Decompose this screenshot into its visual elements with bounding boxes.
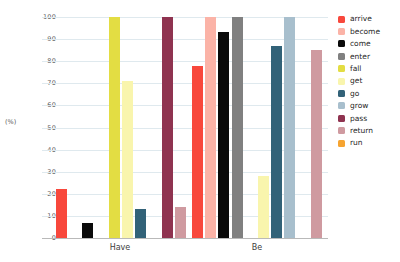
plot-area <box>42 17 328 238</box>
legend-swatch-come <box>338 40 345 47</box>
bar-have-arrive <box>56 189 67 238</box>
bar-have-return <box>175 207 186 238</box>
chart-legend: arrivebecomecomeenterfallgetgogrowpassre… <box>338 13 398 149</box>
legend-item-get[interactable]: get <box>338 75 398 87</box>
legend-item-return[interactable]: return <box>338 125 398 137</box>
x-label-be: Be <box>227 243 287 252</box>
legend-swatch-fall <box>338 65 345 72</box>
bar-be-enter <box>232 17 243 238</box>
legend-swatch-run <box>338 140 345 147</box>
legend-label-fall: fall <box>350 65 361 73</box>
bar-be-come <box>218 32 229 238</box>
legend-label-become: become <box>350 28 380 36</box>
x-label-have: Have <box>90 243 150 252</box>
legend-label-pass: pass <box>350 115 367 123</box>
legend-label-get: get <box>350 77 362 85</box>
legend-swatch-become <box>338 28 345 35</box>
legend-label-go: go <box>350 90 359 98</box>
legend-label-come: come <box>350 40 371 48</box>
bar-have-get <box>122 81 133 238</box>
legend-label-arrive: arrive <box>350 15 372 23</box>
legend-swatch-enter <box>338 53 345 60</box>
gridline-0 <box>42 238 328 239</box>
bar-be-become <box>205 17 216 238</box>
legend-item-become[interactable]: become <box>338 25 398 37</box>
bar-be-arrive <box>192 66 203 238</box>
bar-have-fall <box>109 17 120 238</box>
legend-item-go[interactable]: go <box>338 87 398 99</box>
bar-have-pass <box>162 17 173 238</box>
legend-swatch-grow <box>338 102 345 109</box>
legend-swatch-pass <box>338 115 345 122</box>
legend-item-enter[interactable]: enter <box>338 50 398 62</box>
legend-swatch-return <box>338 127 345 134</box>
legend-label-enter: enter <box>350 53 370 61</box>
legend-label-grow: grow <box>350 102 368 110</box>
legend-label-run: run <box>350 139 363 147</box>
legend-swatch-get <box>338 78 345 85</box>
legend-item-pass[interactable]: pass <box>338 112 398 124</box>
chart-figure: (%) 1009080706050403020100 HaveBe arrive… <box>0 0 400 262</box>
legend-item-fall[interactable]: fall <box>338 63 398 75</box>
legend-item-run[interactable]: run <box>338 137 398 149</box>
legend-item-grow[interactable]: grow <box>338 100 398 112</box>
bar-be-return <box>311 50 322 238</box>
legend-swatch-go <box>338 90 345 97</box>
bar-be-grow <box>284 17 295 238</box>
y-axis-title: (%) <box>5 118 16 126</box>
legend-item-arrive[interactable]: arrive <box>338 13 398 25</box>
bar-have-come <box>82 223 93 238</box>
legend-label-return: return <box>350 127 373 135</box>
bar-be-go <box>271 46 282 238</box>
bar-have-go <box>135 209 146 238</box>
legend-item-come[interactable]: come <box>338 38 398 50</box>
bar-be-get <box>258 176 269 238</box>
legend-swatch-arrive <box>338 16 345 23</box>
